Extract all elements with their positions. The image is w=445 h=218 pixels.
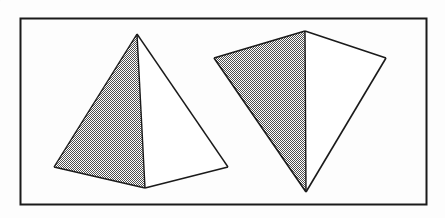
figure-canvas — [0, 0, 445, 218]
pyramid-right-edge-top-to-bottom — [305, 31, 306, 192]
figure-background — [0, 0, 445, 218]
